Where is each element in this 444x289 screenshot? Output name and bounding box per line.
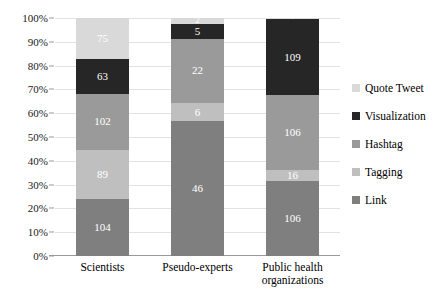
bar-segment[interactable]: 106 xyxy=(266,181,319,256)
y-axis-tick-mark xyxy=(49,160,54,161)
x-axis-tick-label: Public healthorganizations xyxy=(223,261,363,287)
y-axis-tick-mark xyxy=(49,232,54,233)
y-axis-tick-mark xyxy=(49,137,54,138)
bar-segment[interactable]: 6 xyxy=(171,103,224,121)
bar-group: 106161061091Public healthorganizations xyxy=(266,18,319,256)
legend-item-label: Link xyxy=(365,194,387,206)
bar-segment[interactable]: 75 xyxy=(76,18,129,59)
bar-segment[interactable]: 22 xyxy=(171,39,224,104)
legend-item-label: Hashtag xyxy=(365,138,403,150)
segment-value-label: 22 xyxy=(192,65,203,76)
bar-segment[interactable]: 5 xyxy=(171,24,224,39)
legend-item[interactable]: Visualization xyxy=(352,102,442,130)
segment-value-label: 63 xyxy=(97,71,108,82)
legend-item-label: Tagging xyxy=(365,166,403,178)
chart-legend: Quote TweetVisualizationHashtagTaggingLi… xyxy=(352,74,442,214)
segment-value-label: 6 xyxy=(195,107,201,118)
y-axis-tick-mark xyxy=(49,256,54,257)
y-axis-tick-label: 80% xyxy=(28,60,48,71)
segment-value-label: 46 xyxy=(192,183,203,194)
segment-value-label: 2 xyxy=(196,18,200,24)
y-axis-tick-mark xyxy=(49,113,54,114)
bar-segment[interactable]: 2 xyxy=(171,18,224,24)
segment-value-label: 75 xyxy=(97,33,108,44)
segment-value-label: 106 xyxy=(284,213,301,224)
x-axis-tick-label-line: Public health xyxy=(223,261,363,274)
y-axis-tick-mark xyxy=(49,41,54,42)
segment-value-label: 109 xyxy=(284,52,301,63)
segment-value-label: 1 xyxy=(291,18,295,19)
bar-stack[interactable]: 106161061091 xyxy=(266,18,319,256)
bars-layer: 104891026375Scientists4662252Pseudo-expe… xyxy=(55,18,340,256)
legend-item[interactable]: Tagging xyxy=(352,158,442,186)
y-axis-tick-label: 100% xyxy=(22,13,48,24)
bar-group: 104891026375Scientists xyxy=(76,18,129,256)
bar-segment[interactable]: 89 xyxy=(76,150,129,199)
legend-item[interactable]: Link xyxy=(352,186,442,214)
segment-value-label: 5 xyxy=(195,26,201,37)
bar-segment[interactable]: 63 xyxy=(76,59,129,94)
legend-item-label: Quote Tweet xyxy=(365,82,424,94)
y-axis-tick-mark xyxy=(49,65,54,66)
y-axis-tick-mark xyxy=(49,208,54,209)
bar-stack[interactable]: 104891026375 xyxy=(76,18,129,256)
y-axis-tick-label: 60% xyxy=(28,108,48,119)
legend-swatch-icon xyxy=(352,140,360,148)
legend-swatch-icon xyxy=(352,84,360,92)
bar-segment[interactable]: 46 xyxy=(171,121,224,256)
y-axis-tick-label: 0% xyxy=(33,251,48,262)
segment-value-label: 16 xyxy=(287,170,298,181)
bar-stack[interactable]: 4662252 xyxy=(171,18,224,256)
legend-swatch-icon xyxy=(352,168,360,176)
legend-swatch-icon xyxy=(352,196,360,204)
y-axis-tick-mark xyxy=(49,18,54,19)
y-axis-tick-label: 10% xyxy=(28,227,48,238)
y-axis-tick-mark xyxy=(49,184,54,185)
segment-value-label: 89 xyxy=(97,169,108,180)
stacked-bar-chart: 0%10%20%30%40%50%60%70%80%90%100% 104891… xyxy=(0,0,444,289)
x-axis-tick-label-line: organizations xyxy=(223,274,363,287)
bar-segment[interactable]: 1 xyxy=(266,18,319,19)
y-axis-tick-label: 50% xyxy=(28,132,48,143)
segment-value-label: 104 xyxy=(94,222,111,233)
bar-segment[interactable]: 109 xyxy=(266,19,319,96)
y-axis-tick-mark xyxy=(49,89,54,90)
segment-value-label: 106 xyxy=(284,127,301,138)
y-axis-tick-label: 40% xyxy=(28,155,48,166)
legend-item[interactable]: Quote Tweet xyxy=(352,74,442,102)
y-axis-tick-label: 30% xyxy=(28,179,48,190)
segment-value-label: 102 xyxy=(94,116,111,127)
bar-group: 4662252Pseudo-experts xyxy=(171,18,224,256)
plot-area: 0%10%20%30%40%50%60%70%80%90%100% 104891… xyxy=(55,18,340,256)
y-axis-tick-label: 20% xyxy=(28,203,48,214)
y-axis-tick-label: 90% xyxy=(28,36,48,47)
legend-swatch-icon xyxy=(352,112,360,120)
y-axis-tick-label: 70% xyxy=(28,84,48,95)
legend-item-label: Visualization xyxy=(365,110,426,122)
bar-segment[interactable]: 16 xyxy=(266,170,319,181)
legend-item[interactable]: Hashtag xyxy=(352,130,442,158)
bar-segment[interactable]: 106 xyxy=(266,95,319,170)
bar-segment[interactable]: 102 xyxy=(76,94,129,150)
bar-segment[interactable]: 104 xyxy=(76,199,129,256)
